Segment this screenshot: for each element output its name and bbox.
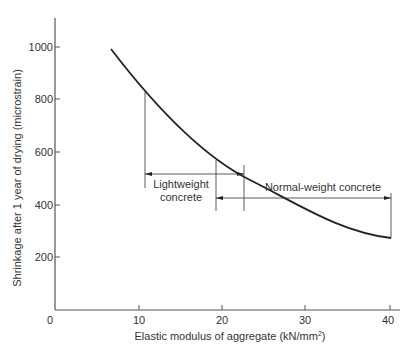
svg-text:Lightweight: Lightweight — [153, 178, 209, 190]
shrinkage-curve — [111, 49, 391, 238]
range-markers — [145, 92, 391, 238]
svg-text:10: 10 — [133, 314, 145, 326]
svg-text:concrete: concrete — [160, 191, 202, 203]
x-ticks — [139, 305, 390, 310]
svg-text:0: 0 — [47, 314, 53, 326]
svg-text:200: 200 — [35, 251, 53, 263]
svg-text:800: 800 — [35, 93, 53, 105]
lightweight-label: Lightweight concrete — [153, 178, 209, 203]
svg-text:400: 400 — [35, 199, 53, 211]
svg-text:1000: 1000 — [29, 41, 53, 53]
y-ticks — [55, 47, 60, 257]
normal-weight-label: Normal-weight concrete — [265, 181, 381, 193]
svg-text:20: 20 — [216, 314, 228, 326]
svg-text:30: 30 — [299, 314, 311, 326]
svg-text:600: 600 — [35, 146, 53, 158]
shrinkage-chart: 1000 800 600 400 200 0 10 20 30 40 Elast… — [0, 0, 410, 348]
svg-text:40: 40 — [382, 314, 394, 326]
x-tick-labels: 0 10 20 30 40 — [47, 314, 394, 326]
x-axis-label: Elastic modulus of aggregate (kN/mm2) — [135, 330, 326, 342]
y-axis-label: Shrinkage after 1 year of drying (micros… — [11, 69, 23, 287]
y-tick-labels: 1000 800 600 400 200 — [29, 41, 53, 263]
